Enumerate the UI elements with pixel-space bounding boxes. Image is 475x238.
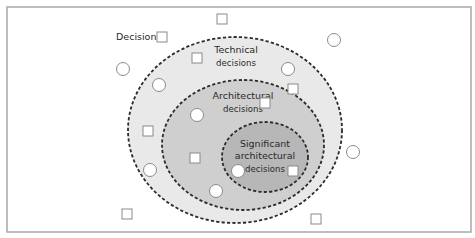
- decision-scope-diagram: Decision Technical decisions Architectur…: [0, 0, 475, 238]
- decision-circle-icon: [210, 185, 223, 198]
- significant-label-line2: architectural: [235, 150, 295, 161]
- legend-label-decision: Decision: [116, 31, 156, 42]
- decision-square-icon: [288, 84, 298, 94]
- decision-circle-icon: [117, 63, 130, 76]
- technical-label-line1: Technical: [213, 44, 258, 55]
- decision-circle-icon: [282, 63, 295, 76]
- decision-square-icon: [217, 14, 227, 24]
- significant-label-line1: Significant: [240, 138, 290, 149]
- decision-square-icon: [311, 214, 321, 224]
- architectural-label-line2: decisions: [223, 104, 263, 114]
- technical-label-line2: decisions: [216, 58, 256, 68]
- decision-circle-icon: [347, 146, 360, 159]
- decision-square-icon: [143, 126, 153, 136]
- decision-circle-icon: [328, 34, 341, 47]
- significant-label-line3: decisions: [245, 164, 285, 174]
- decision-square-icon: [192, 53, 202, 63]
- decision-square-icon: [190, 153, 200, 163]
- decision-circle-icon: [232, 165, 245, 178]
- decision-square-icon: [122, 209, 132, 219]
- decision-circle-icon: [153, 79, 166, 92]
- decision-square-icon: [288, 166, 298, 176]
- decision-square-icon: [260, 98, 270, 108]
- decision-circle-icon: [191, 109, 204, 122]
- decision-circle-icon: [144, 164, 157, 177]
- decision-square-icon: [157, 32, 167, 42]
